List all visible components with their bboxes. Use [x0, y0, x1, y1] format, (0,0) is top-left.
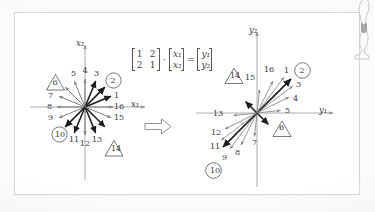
vector-x-component-1: x₁ — [173, 49, 180, 59]
right-axis-y-label: y₂ — [249, 26, 257, 35]
vector-x-bracket: x₁ x₂ — [169, 48, 184, 71]
left-point-label-9: 9 — [48, 114, 53, 122]
right-point-label-1: 1 — [284, 67, 289, 75]
left-axis-y-label: x₂ — [76, 39, 84, 48]
left-point-label-2: 2 — [111, 77, 116, 85]
left-point-label-13: 13 — [92, 136, 102, 144]
matrix-equation: 1 2 2 1 · x₁ x₂ = — [132, 48, 212, 71]
left-point-label-16: 16 — [114, 103, 124, 111]
vector-y-component-1: y₁ — [201, 49, 208, 59]
multiplication-operator: · — [162, 55, 167, 65]
transform-arrow-icon — [145, 119, 171, 134]
right-point-label-11: 11 — [210, 143, 220, 151]
right-point-label-16: 16 — [264, 66, 274, 74]
left-point-label-8: 8 — [47, 103, 52, 111]
right-point-label-10: 10 — [210, 167, 220, 175]
figure-vector-graphics — [14, 12, 360, 195]
matrix-cell-a22: 1 — [149, 60, 156, 70]
vector-y-bracket: y₁ y₂ — [197, 48, 212, 71]
right-point-label-14: 14 — [230, 72, 240, 80]
right-point-label-7: 7 — [252, 139, 257, 147]
left-plot-vectors — [57, 79, 113, 135]
right-point-label-2: 2 — [300, 67, 305, 75]
vector-x-component-2: x₂ — [173, 60, 180, 70]
left-point-label-5: 5 — [71, 70, 76, 78]
left-point-label-7: 7 — [48, 92, 53, 100]
right-point-label-4: 4 — [293, 95, 298, 103]
right-point-label-9: 9 — [222, 154, 227, 162]
left-point-label-4: 4 — [83, 67, 88, 75]
left-axis-x-label: x₁ — [131, 100, 139, 109]
left-point-label-3: 3 — [94, 70, 99, 78]
right-axis-x-label: y₁ — [319, 106, 327, 115]
right-point-label-8: 8 — [235, 149, 240, 157]
left-point-label-6: 6 — [53, 79, 58, 87]
left-point-label-15: 15 — [114, 114, 124, 122]
matrix-cell-a11: 1 — [136, 49, 143, 59]
left-point-label-1: 1 — [114, 92, 119, 100]
matrix-cell-a21: 2 — [136, 60, 143, 70]
left-point-label-14: 14 — [111, 145, 121, 153]
matrix-cell-a12: 2 — [149, 49, 156, 59]
right-point-label-6: 6 — [279, 124, 284, 132]
vector-y-component-2: y₂ — [201, 60, 208, 70]
right-point-label-13: 13 — [213, 110, 223, 118]
left-point-label-11: 11 — [69, 136, 79, 144]
figure-canvas: 1 2 2 1 · x₁ x₂ = — [14, 12, 360, 195]
matrix-A-bracket: 1 2 2 1 — [132, 48, 160, 71]
scanned-page: 1 2 2 1 · x₁ x₂ = — [0, 0, 375, 212]
left-point-label-10: 10 — [55, 131, 65, 139]
right-point-label-5: 5 — [285, 107, 290, 115]
left-point-label-12: 12 — [80, 140, 90, 148]
right-point-label-3: 3 — [296, 81, 301, 89]
right-point-label-15: 15 — [245, 74, 255, 82]
right-point-label-12: 12 — [211, 129, 221, 137]
equals-operator: = — [186, 55, 196, 65]
